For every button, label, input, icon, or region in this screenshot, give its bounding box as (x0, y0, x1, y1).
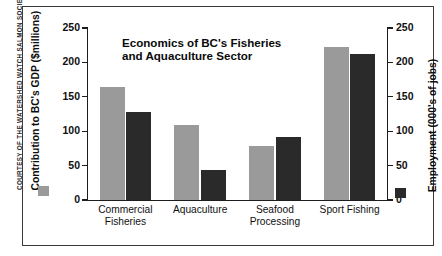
bar-gdp (100, 87, 125, 200)
y-tick-right (387, 199, 393, 200)
y-tick-right (387, 165, 393, 166)
bar-group (324, 28, 376, 200)
y-axis-left-tick-labels: 250200150100500 (38, 0, 80, 256)
bar-group (249, 28, 301, 200)
chart-figure: COURTESY OF THE WATERSHED WATCH SALMON S… (0, 0, 442, 256)
x-axis-category-labels: CommercialFisheriesAquacultureSeafoodPro… (88, 204, 387, 244)
bar-group (174, 28, 226, 200)
y-tick-label-right: 250 (396, 22, 436, 33)
bar-gdp (174, 125, 199, 200)
bar-group (100, 28, 152, 200)
y-tick-label-left: 150 (40, 91, 80, 102)
y-axis-right (387, 28, 388, 201)
bar-employment (276, 137, 301, 200)
y-tick-label-left: 100 (40, 125, 80, 136)
x-category-label: Sport Fishing (312, 204, 387, 216)
y-tick-right (387, 62, 393, 63)
bar-employment (126, 112, 151, 200)
x-axis (87, 200, 388, 201)
x-category-label: CommercialFisheries (88, 204, 163, 227)
y-tick-right (387, 131, 393, 132)
y-tick-label-left: 200 (40, 56, 80, 67)
plot-area (88, 28, 387, 200)
y-tick-label-left: 250 (40, 22, 80, 33)
x-category-label: SeafoodProcessing (238, 204, 313, 227)
x-category-label: Aquaculture (163, 204, 238, 216)
legend-swatch-employment (395, 188, 406, 198)
y-axis-right-title: Employment (000's of jobs) (427, 46, 438, 206)
legend-swatch-gdp (38, 186, 49, 196)
y-tick-right (387, 27, 393, 28)
y-axis-left-title: Contribution to BC's GDP ($millions) (30, 21, 41, 191)
bar-gdp (324, 47, 349, 200)
y-tick-right (387, 96, 393, 97)
bar-employment (201, 170, 226, 200)
bar-gdp (249, 146, 274, 200)
y-tick-label-left: 50 (40, 160, 80, 171)
bar-employment (350, 54, 375, 200)
